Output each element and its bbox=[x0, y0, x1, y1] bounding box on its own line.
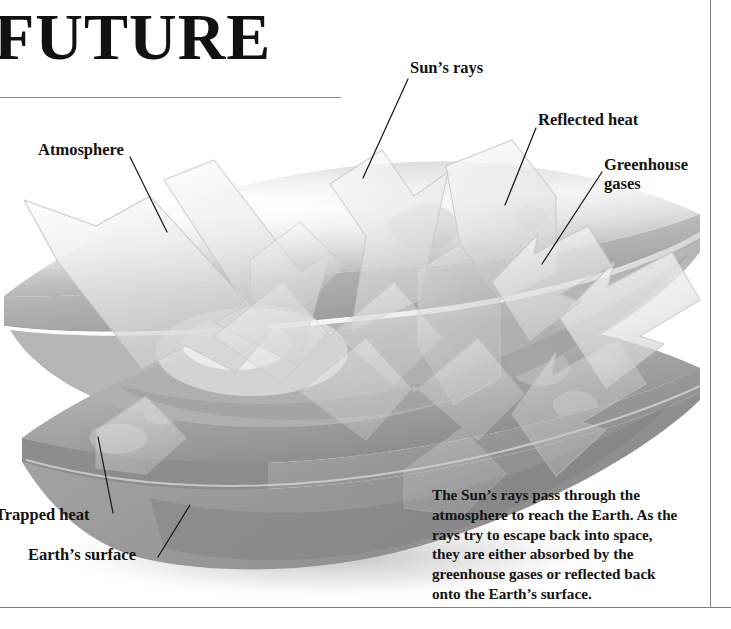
page-root: FUTURE bbox=[0, 0, 731, 629]
label-reflected-heat: Reflected heat bbox=[538, 110, 638, 129]
label-trapped-heat: Trapped heat bbox=[0, 505, 90, 524]
label-greenhouse-gases: Greenhouse gases bbox=[604, 155, 688, 194]
page-right-rule bbox=[710, 0, 711, 608]
label-earths-surface: Earth’s surface bbox=[28, 545, 136, 564]
label-suns-rays: Sun’s rays bbox=[410, 58, 483, 77]
figure-caption: The Sun’s rays pass through the atmosphe… bbox=[432, 485, 684, 604]
label-atmosphere: Atmosphere bbox=[38, 140, 124, 159]
page-bottom-rule bbox=[0, 607, 731, 608]
